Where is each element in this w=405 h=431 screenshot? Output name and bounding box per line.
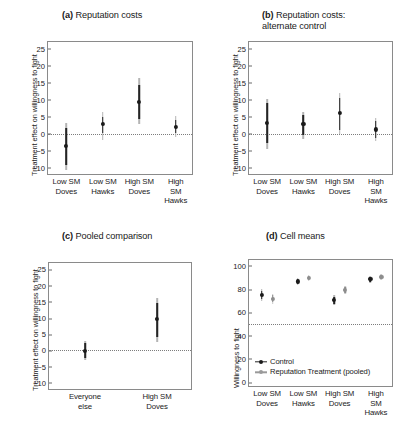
y-axis-label: Treatment effect on willingness to fight [30, 54, 39, 176]
y-tick-label: 15 [37, 78, 48, 87]
y-tick-label: 10 [38, 314, 49, 323]
data-point-group [334, 42, 346, 174]
y-tick-label: −5 [37, 362, 49, 371]
x-tick-label: High SM Doves [325, 177, 354, 196]
y-tick-label: 5 [242, 112, 249, 121]
panel-tag: (b) [262, 10, 273, 20]
data-point-marker [271, 297, 275, 301]
data-point-group [170, 42, 182, 174]
data-point-marker [368, 277, 372, 281]
data-point-group [97, 42, 109, 174]
panel-title-text: Reputation costs [75, 10, 142, 20]
x-tick-label: Low SM Hawks [290, 389, 318, 408]
panel-title: (c) Pooled comparison [62, 231, 202, 242]
y-tick-label: 5 [41, 112, 48, 121]
legend-label: Control [270, 357, 294, 368]
y-tick-label: −10 [32, 163, 48, 172]
y-tick-label: 25 [38, 265, 49, 274]
y-tick-label: 15 [238, 78, 249, 87]
y-tick-label: 20 [238, 61, 249, 70]
y-tick-label: 25 [37, 44, 48, 53]
data-point-group [79, 263, 91, 389]
data-point-marker [64, 144, 68, 148]
panel-title: (d) Cell means [266, 231, 405, 242]
plot-area: −10−50510152025Low SM DovesLow SM HawksH… [248, 41, 393, 175]
y-axis-label: Treatment effect on willingness to fight [231, 54, 240, 176]
data-point-group [375, 260, 387, 386]
data-point-group [60, 42, 72, 174]
plot-area: 020406080100Low SM DovesLow SM HawksHigh… [248, 259, 393, 387]
y-tick-label: 80 [238, 285, 249, 294]
data-point-marker [174, 125, 178, 129]
reference-line [49, 350, 191, 351]
data-point-marker [374, 127, 378, 131]
y-tick-label: 60 [238, 308, 249, 317]
panel-title-text: Reputation costs: alternate control [262, 10, 345, 31]
y-tick-label: 0 [242, 378, 249, 387]
x-tick-label: High SM Doves [142, 392, 171, 411]
x-tick-label: Low SM Doves [253, 389, 281, 408]
x-tick-label: High SM Hawks [364, 389, 387, 418]
data-point-marker [296, 279, 300, 283]
x-tick-label: Low SM Hawks [89, 177, 117, 196]
legend-marker-icon [255, 368, 267, 376]
data-point-group [297, 42, 309, 174]
y-tick-label: 20 [37, 61, 48, 70]
y-tick-label: −10 [233, 163, 249, 172]
data-point-group [133, 42, 145, 174]
x-tick-label: Low SM Doves [253, 177, 281, 196]
legend: ControlReputation Treatment (pooled) [255, 357, 370, 378]
legend-item: Control [255, 357, 370, 368]
x-tick-label: Low SM Doves [52, 177, 80, 196]
x-tick-label: High SM Hawks [364, 177, 387, 206]
y-tick-label: 0 [41, 129, 48, 138]
y-tick-label: 10 [238, 95, 249, 104]
data-point-marker [379, 275, 383, 279]
y-tick-label: 20 [38, 281, 49, 290]
data-point-marker [83, 349, 87, 353]
data-point-marker [155, 317, 159, 321]
plot-area: −10−50510152025Low SM DovesLow SM HawksH… [47, 41, 193, 175]
data-point-group [370, 42, 382, 174]
x-tick-label: Low SM Hawks [290, 177, 318, 196]
data-point-marker [137, 100, 141, 104]
data-point-marker [301, 122, 305, 126]
data-point-marker [338, 111, 342, 115]
x-tick-label: High SM Doves [325, 389, 354, 408]
x-tick-label: Everyone else [69, 392, 101, 411]
data-point-marker [260, 293, 264, 297]
y-tick-label: 0 [42, 346, 49, 355]
panel-tag: (c) [62, 231, 73, 241]
y-tick-label: 15 [38, 297, 49, 306]
data-point-marker [307, 276, 311, 280]
x-tick-label: High SM Doves [125, 177, 154, 196]
data-point-marker [343, 288, 347, 292]
data-point-marker [265, 121, 269, 125]
data-point-group [261, 42, 273, 174]
y-tick-label: 5 [42, 330, 49, 339]
y-tick-label: 0 [242, 129, 249, 138]
panel-title: (b) Reputation costs: alternate control [262, 10, 402, 32]
data-point-group [151, 263, 163, 389]
y-tick-label: 25 [238, 44, 249, 53]
plot-area: −10−50510152025Everyone elseHigh SM Dove… [48, 262, 192, 390]
legend-label: Reputation Treatment (pooled) [270, 367, 370, 378]
y-tick-label: 40 [238, 331, 249, 340]
figure-panel-grid: (a) Reputation costsTreatment effect on … [0, 0, 405, 431]
panel-title: (a) Reputation costs [62, 10, 202, 21]
y-tick-label: 100 [233, 261, 249, 270]
legend-item: Reputation Treatment (pooled) [255, 367, 370, 378]
y-tick-label: −5 [36, 146, 48, 155]
y-tick-label: −5 [237, 146, 249, 155]
x-tick-label: High SM Hawks [164, 177, 187, 206]
panel-tag: (a) [62, 10, 73, 20]
panel-tag: (d) [266, 231, 277, 241]
data-point-marker [101, 122, 105, 126]
legend-marker-icon [255, 358, 267, 366]
y-tick-label: 20 [238, 354, 249, 363]
panel-title-text: Cell means [280, 231, 325, 241]
data-point-marker [332, 298, 336, 302]
y-tick-label: 10 [37, 95, 48, 104]
y-tick-label: −10 [33, 378, 49, 387]
panel-title-text: Pooled comparison [75, 231, 152, 241]
